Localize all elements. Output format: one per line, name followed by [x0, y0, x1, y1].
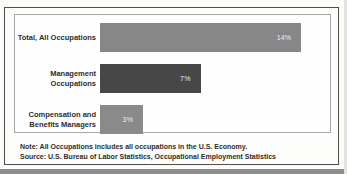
- chart-page: Total, All Occupations 14% Management Oc…: [0, 0, 347, 174]
- bar-row-management-occupations: Management Occupations 7%: [15, 64, 330, 93]
- chart-notes: Note: All Occupations includes all occup…: [20, 142, 320, 162]
- plot-area: Total, All Occupations 14% Management Oc…: [14, 14, 331, 133]
- page-bottom-edge: [0, 169, 347, 174]
- category-label-management-occupations: Management Occupations: [15, 69, 100, 89]
- bar-value-label: 14%: [277, 34, 292, 41]
- bar-row-compensation-benefits-managers: Compensation and Benefits Managers 3%: [15, 105, 330, 134]
- bar-total-all-occupations: 14%: [100, 23, 301, 52]
- bar-compensation-benefits-managers: 3%: [100, 105, 143, 134]
- bar-row-total-all-occupations: Total, All Occupations 14%: [15, 23, 330, 52]
- bar-management-occupations: 7%: [100, 64, 201, 93]
- bar-track: 7%: [100, 64, 330, 93]
- bar-value-label: 3%: [123, 116, 134, 123]
- bar-value-label: 7%: [180, 75, 191, 82]
- chart-outer-frame: Total, All Occupations 14% Management Oc…: [4, 7, 339, 165]
- category-label-compensation-benefits-managers: Compensation and Benefits Managers: [15, 110, 100, 130]
- bar-track: 3%: [100, 105, 330, 134]
- source-line: Source: U.S. Bureau of Labor Statistics,…: [20, 152, 320, 162]
- bar-track: 14%: [100, 23, 330, 52]
- category-label-total-all-occupations: Total, All Occupations: [15, 33, 100, 43]
- note-line: Note: All Occupations includes all occup…: [20, 142, 320, 152]
